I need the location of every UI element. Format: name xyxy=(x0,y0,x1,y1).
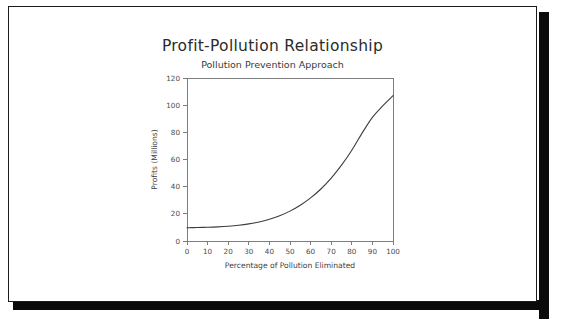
x-tick-label: 60 xyxy=(306,247,316,256)
y-tick-label: 20 xyxy=(171,209,181,218)
x-tick-label: 10 xyxy=(203,247,213,256)
x-tick-label: 20 xyxy=(224,247,234,256)
series-line-profits xyxy=(187,96,393,228)
y-tick-label: 120 xyxy=(166,74,180,83)
y-tick-label: 0 xyxy=(175,237,180,246)
y-tick-label: 80 xyxy=(171,128,181,137)
x-axis-title: Percentage of Pollution Eliminated xyxy=(225,261,355,270)
chart-container: 0102030405060708090100 020406080100120 P… xyxy=(9,7,538,303)
x-tick-label: 40 xyxy=(265,247,275,256)
y-axis-title: Profits (Millions) xyxy=(150,129,159,190)
y-tick-label: 40 xyxy=(171,182,181,191)
y-tick-label: 60 xyxy=(171,155,181,164)
chart-page: Profit-Pollution Relationship Pollution … xyxy=(8,6,537,302)
x-tick-label: 90 xyxy=(368,247,378,256)
x-tick-label: 0 xyxy=(185,247,190,256)
x-tick-label: 80 xyxy=(347,247,357,256)
x-tick-label: 100 xyxy=(386,247,400,256)
x-tick-label: 50 xyxy=(285,247,295,256)
x-tick-label: 70 xyxy=(327,247,337,256)
x-axis-ticks: 0102030405060708090100 xyxy=(185,241,401,256)
page-shadow-right xyxy=(539,12,549,319)
y-tick-label: 100 xyxy=(166,101,180,110)
profit-pollution-line-chart: 0102030405060708090100 020406080100120 P… xyxy=(9,7,538,303)
series-group xyxy=(187,96,393,228)
screenshot-root: Profit-Pollution Relationship Pollution … xyxy=(0,0,570,319)
y-axis-ticks: 020406080100120 xyxy=(166,74,187,246)
plot-frame xyxy=(187,78,393,241)
x-tick-label: 30 xyxy=(244,247,254,256)
